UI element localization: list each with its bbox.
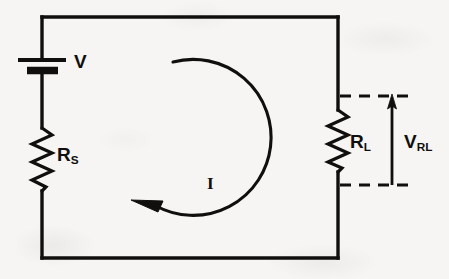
label-vrl-base: V <box>404 131 417 152</box>
label-rs-subscript: S <box>71 153 79 166</box>
label-resistor-rl: RL <box>350 132 371 151</box>
resistor-rl-zigzag <box>328 110 348 172</box>
label-rl-subscript: L <box>364 140 371 153</box>
label-current: I <box>207 175 214 192</box>
label-rl-base: R <box>350 131 364 152</box>
label-rs-base: R <box>57 144 71 165</box>
circuit-diagram-figure: V RS RL VRL I <box>0 0 449 279</box>
label-source-voltage: V <box>74 52 87 71</box>
resistor-rs-zigzag <box>32 128 52 191</box>
circuit-schematic-canvas <box>0 0 449 279</box>
label-load-voltage: VRL <box>404 132 432 151</box>
label-vrl-subscript: RL <box>417 140 433 153</box>
current-arrowhead-icon <box>131 200 163 212</box>
label-resistor-rs: RS <box>57 145 79 164</box>
